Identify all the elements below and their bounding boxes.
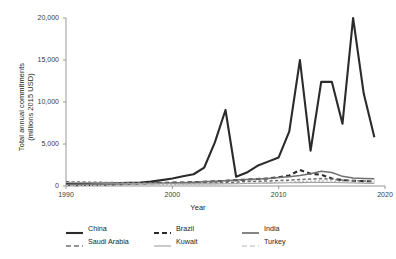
legend-swatch-solid-line-icon	[154, 237, 171, 247]
chart-figure: Total annual commitments(millions 2015 U…	[0, 0, 396, 259]
y-tick-label: 0	[19, 182, 59, 189]
x-tick-label: 2020	[365, 191, 396, 198]
legend-swatch-solid-line-icon	[66, 224, 83, 234]
legend-swatch-dashed-line-icon	[154, 224, 171, 234]
y-tick-label: 10,000	[19, 98, 59, 105]
y-tick-label: 15,000	[19, 56, 59, 63]
legend-label: Kuwait	[176, 237, 198, 246]
legend-item-india[interactable]: India	[242, 224, 330, 234]
x-tick-label: 2010	[259, 191, 299, 198]
x-tick-label: 1990	[46, 191, 86, 198]
chart-legend: ChinaBrazilIndia Saudi ArabiaKuwaitTurke…	[0, 222, 396, 256]
y-tick-label: 5,000	[19, 140, 59, 147]
legend-swatch-dashed-line-icon	[66, 237, 83, 247]
legend-label: Brazil	[176, 224, 194, 233]
legend-swatch-dashed-line-icon	[242, 237, 259, 247]
legend-item-china[interactable]: China	[66, 224, 154, 234]
legend-label: Saudi Arabia	[88, 237, 129, 246]
legend-item-brazil[interactable]: Brazil	[154, 224, 242, 234]
data-series-group	[66, 18, 374, 186]
series-line-china	[66, 18, 374, 184]
legend-row-top: ChinaBrazilIndia	[0, 222, 396, 235]
legend-item-kuwait[interactable]: Kuwait	[154, 237, 242, 247]
legend-label: India	[264, 224, 280, 233]
y-tick-label: 20,000	[19, 14, 59, 21]
legend-label: Turkey	[264, 237, 286, 246]
y-axis-title-line2: (millions 2015 USD)	[26, 73, 35, 141]
legend-item-turkey[interactable]: Turkey	[242, 237, 330, 247]
legend-row-bottom: Saudi ArabiaKuwaitTurkey	[0, 235, 396, 248]
legend-item-saudi-arabia[interactable]: Saudi Arabia	[66, 237, 154, 247]
x-tick-label: 2000	[152, 191, 192, 198]
legend-label: China	[88, 224, 107, 233]
x-axis-title: Year	[0, 203, 396, 212]
legend-swatch-solid-line-icon	[242, 224, 259, 234]
plot-svg	[0, 0, 396, 259]
y-axis-title-line1: Total annual commitments	[17, 63, 26, 151]
